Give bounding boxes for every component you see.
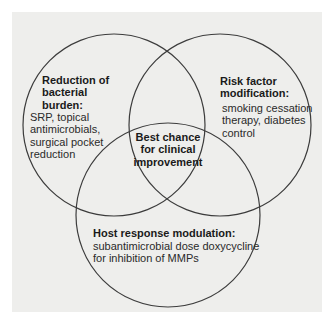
heading-line: burden: <box>42 99 109 111</box>
body-line: SRP, topical <box>30 111 103 123</box>
intersection-line: for clinical <box>128 143 208 155</box>
body-line: therapy, diabetes <box>222 114 313 126</box>
host-response-body: subantimicrobial dose doxycycline for in… <box>93 240 259 265</box>
body-line: smoking cessation <box>222 102 313 114</box>
risk-factor-body: smoking cessation therapy, diabetes cont… <box>222 102 313 139</box>
bacterial-burden-body: SRP, topical antimicrobials, surgical po… <box>30 111 103 160</box>
heading-line: Host response modulation: <box>93 227 235 239</box>
body-line: control <box>222 127 313 139</box>
bacterial-burden-heading: Reduction of bacterial burden: <box>42 74 109 111</box>
heading-line: Reduction of <box>42 74 109 86</box>
host-response-heading: Host response modulation: <box>93 227 235 239</box>
heading-line: Risk factor <box>220 75 289 87</box>
intersection-line: Best chance <box>128 131 208 143</box>
heading-line: bacterial <box>42 86 109 98</box>
risk-factor-heading: Risk factor modification: <box>220 75 289 100</box>
intersection-label: Best chance for clinical improvement <box>128 131 208 168</box>
intersection-line: improvement <box>128 156 208 168</box>
body-line: reduction <box>30 148 103 160</box>
heading-line: modification: <box>220 87 289 99</box>
body-line: for inhibition of MMPs <box>93 252 259 264</box>
body-line: subantimicrobial dose doxycycline <box>93 240 259 252</box>
body-line: surgical pocket <box>30 136 103 148</box>
body-line: antimicrobials, <box>30 123 103 135</box>
